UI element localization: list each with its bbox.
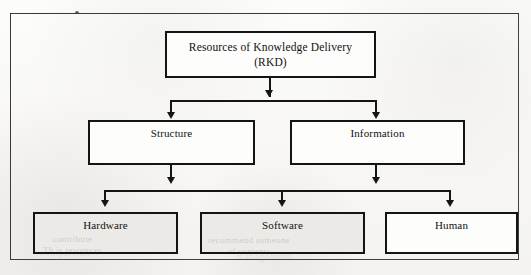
arrowhead-structure [167, 112, 175, 119]
node-hardware[interactable]: contribute Th is resources Hardware [33, 212, 178, 254]
node-hardware-label: Hardware [35, 214, 176, 233]
node-structure[interactable]: Structure [88, 120, 255, 165]
node-software-label: Software [202, 214, 363, 233]
arrowhead-hardware [101, 200, 109, 207]
node-information-label: Information [292, 122, 463, 141]
arrowhead-software [278, 200, 286, 207]
node-rkd-label: Resources of Knowledge Delivery (RKD) [167, 33, 374, 70]
edge-bus-level2 [170, 100, 377, 102]
arrowhead-human [446, 200, 454, 207]
node-human[interactable]: Human [385, 212, 518, 254]
arrowhead-rkd-stem [265, 90, 273, 97]
node-human-label: Human [387, 214, 516, 233]
arrowhead-structure-down [167, 177, 175, 184]
node-structure-label: Structure [90, 122, 253, 141]
node-hardware-ghost-text: contribute Th is resources [43, 234, 102, 254]
arrowhead-information-down [372, 177, 380, 184]
node-rkd[interactable]: Resources of Knowledge Delivery (RKD) [165, 31, 376, 78]
edge-bus-level3 [104, 190, 451, 192]
arrowhead-information [372, 112, 380, 119]
figure-page: a relatively comparison with the managem… [0, 0, 531, 275]
node-software[interactable]: recommend someone of contents Software [200, 212, 365, 254]
node-information[interactable]: Information [290, 120, 465, 165]
node-software-ghost-text: recommend someone of contents [208, 235, 290, 254]
